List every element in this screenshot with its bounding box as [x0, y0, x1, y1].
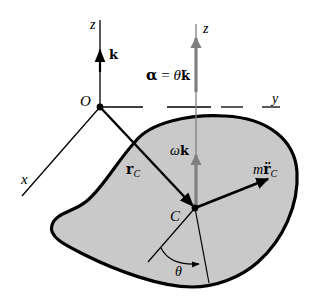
r-subscript: C	[133, 168, 140, 179]
center-of-mass-point	[192, 205, 199, 212]
alpha-k: k	[181, 68, 190, 83]
alpha-symbol: α	[146, 66, 158, 84]
origin-label: O	[80, 94, 91, 109]
equals-sign: =	[158, 67, 174, 83]
x-axis-label: x	[21, 172, 28, 187]
z-axis-label-right: z	[203, 22, 208, 36]
origin-point-O	[97, 104, 104, 111]
angular-velocity-label: ωk	[170, 143, 189, 158]
center-label: C	[170, 209, 180, 224]
r-ddot-symbol: r̈	[263, 161, 270, 177]
inertial-force-label: mr̈C	[253, 162, 277, 179]
y-axis-label: y	[272, 92, 278, 106]
mass-symbol: m	[253, 162, 263, 177]
z-axis-label-left: z	[90, 18, 95, 32]
omega-symbol: ω	[170, 143, 180, 158]
rigid-body-diagram	[0, 0, 315, 308]
alpha-equation: α = θ̈k	[146, 68, 190, 83]
position-vector-label: rC	[126, 162, 140, 179]
omega-k: k	[180, 143, 189, 158]
theta-label: θ	[175, 265, 182, 279]
unit-vector-k-label: k	[109, 48, 118, 61]
theta-ddot: θ̈	[174, 67, 181, 83]
x-axis	[22, 107, 100, 196]
r-ddot-subscript: C	[271, 168, 278, 179]
